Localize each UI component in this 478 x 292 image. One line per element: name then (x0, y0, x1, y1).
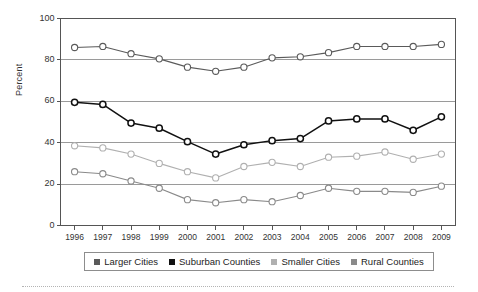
legend-item[interactable]: Smaller Cities (271, 256, 340, 267)
line-chart-figure: Percent 100806040200 1996199719981999200… (0, 0, 478, 292)
y-tick-label: 20 (29, 178, 55, 188)
legend-label: Larger Cities (104, 256, 158, 267)
x-tick-marks (75, 226, 442, 230)
x-tick-label: 2007 (370, 232, 400, 242)
x-tick-label: 2003 (257, 232, 287, 242)
legend-swatch-icon (169, 259, 175, 265)
x-tick-label: 1997 (88, 232, 118, 242)
y-tick-label: 100 (29, 13, 55, 23)
axis-lines (61, 19, 456, 226)
legend-item[interactable]: Suburban Counties (169, 256, 260, 267)
x-tick-label: 2009 (426, 232, 456, 242)
y-tick-label: 40 (29, 137, 55, 147)
x-tick-label: 2008 (398, 232, 428, 242)
y-tick-label: 80 (29, 54, 55, 64)
y-tick-label: 60 (29, 95, 55, 105)
legend-label: Smaller Cities (281, 256, 340, 267)
x-tick-label: 2000 (172, 232, 202, 242)
y-tick-label: 0 (29, 220, 55, 230)
legend-swatch-icon (351, 259, 357, 265)
legend-item[interactable]: Larger Cities (94, 256, 158, 267)
footer-divider (22, 286, 454, 288)
x-tick-label: 1999 (144, 232, 174, 242)
legend-swatch-icon (94, 259, 100, 265)
x-tick-label: 2005 (314, 232, 344, 242)
legend-label: Suburban Counties (179, 256, 260, 267)
legend-label: Rural Counties (361, 256, 424, 267)
series-markers (72, 41, 445, 206)
x-tick-label: 2001 (201, 232, 231, 242)
y-axis-title: Percent (14, 64, 24, 96)
legend-item[interactable]: Rural Counties (351, 256, 424, 267)
x-tick-label: 2006 (342, 232, 372, 242)
x-tick-label: 2002 (229, 232, 259, 242)
x-tick-label: 1998 (116, 232, 146, 242)
gridlines (61, 19, 456, 226)
x-tick-label: 2004 (285, 232, 315, 242)
legend-swatch-icon (271, 259, 277, 265)
y-tick-marks (57, 19, 61, 226)
x-tick-label: 1996 (60, 232, 90, 242)
chart-plot-area (0, 0, 478, 292)
chart-legend: Larger CitiesSuburban CountiesSmaller Ci… (84, 252, 434, 271)
